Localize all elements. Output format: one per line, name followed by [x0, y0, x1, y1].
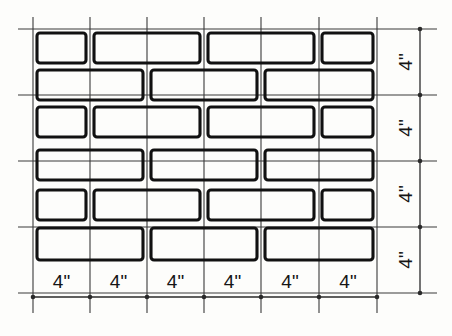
bottom-dimension-tick-6 — [375, 295, 380, 300]
right-dimension-label-3: 4" — [395, 251, 416, 268]
bottom-dimension-tick-2 — [145, 295, 150, 300]
right-dimension-label-1: 4" — [395, 119, 416, 136]
right-dimension-tick-4 — [418, 291, 423, 296]
bottom-dimension-tick-1 — [88, 295, 93, 300]
right-dimension-label-0: 4" — [395, 53, 416, 70]
bottom-dimension-label-4: 4" — [281, 271, 298, 292]
bottom-dimension-label-0: 4" — [53, 271, 70, 292]
bottom-dimension-tick-4 — [259, 295, 264, 300]
bottom-dimension-label-5: 4" — [339, 271, 356, 292]
bottom-dimension-label-3: 4" — [224, 271, 241, 292]
bottom-dimension-label-2: 4" — [167, 271, 184, 292]
bottom-dimension-tick-5 — [317, 295, 322, 300]
right-dimension-tick-2 — [418, 159, 423, 164]
right-dimension-tick-1 — [418, 93, 423, 98]
right-dimension-tick-0 — [418, 27, 423, 32]
bottom-dimension-label-1: 4" — [110, 271, 127, 292]
drawing-page: 4"4"4"4"4"4" 4"4"4"4" — [0, 0, 452, 336]
bottom-dimension-tick-0 — [31, 295, 36, 300]
brick-coursing-diagram: 4"4"4"4"4"4" 4"4"4"4" — [0, 0, 452, 336]
right-dimension-tick-3 — [418, 225, 423, 230]
right-dimension-label-2: 4" — [395, 185, 416, 202]
bottom-dimension-tick-3 — [202, 295, 207, 300]
